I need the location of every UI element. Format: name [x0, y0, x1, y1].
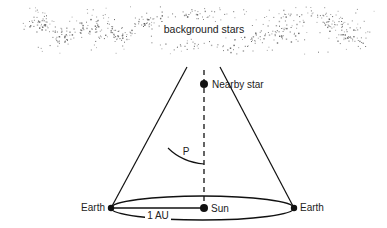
background-star	[255, 32, 256, 33]
background-star	[83, 29, 84, 30]
background-star	[242, 39, 243, 40]
background-star	[251, 39, 252, 40]
background-star	[338, 11, 339, 12]
background-star	[351, 38, 352, 39]
background-star	[299, 21, 300, 22]
background-star	[138, 23, 139, 24]
background-star	[66, 35, 67, 36]
background-star	[186, 14, 187, 15]
background-star	[344, 38, 345, 39]
background-star	[230, 52, 231, 53]
background-star	[103, 15, 104, 16]
background-star	[264, 35, 265, 36]
background-star	[122, 46, 123, 47]
background-star	[187, 16, 188, 17]
background-star	[96, 31, 97, 32]
background-star	[337, 41, 338, 42]
background-star	[119, 38, 120, 39]
background-star	[115, 36, 116, 37]
background-star	[227, 49, 228, 50]
background-star	[53, 21, 54, 22]
background-star	[279, 31, 280, 32]
background-star	[263, 24, 264, 25]
background-star	[245, 46, 246, 47]
background-star	[359, 41, 360, 42]
background-star	[29, 26, 30, 27]
background-star	[66, 31, 67, 32]
background-star	[117, 39, 118, 40]
background-star	[82, 27, 83, 28]
nearby-star-dot	[200, 80, 208, 88]
background-star	[135, 26, 136, 27]
background-star	[113, 34, 114, 35]
background-star	[363, 43, 364, 44]
background-star	[260, 32, 261, 33]
background-star	[81, 37, 82, 38]
background-star	[135, 18, 136, 19]
background-star	[82, 25, 83, 26]
background-star	[283, 31, 284, 32]
background-star	[151, 25, 152, 26]
background-star	[67, 35, 68, 36]
background-star	[190, 12, 191, 13]
background-star	[220, 19, 221, 20]
background-star	[279, 26, 280, 27]
background-star	[38, 21, 39, 22]
background-star	[290, 32, 291, 33]
background-star	[144, 24, 145, 25]
background-star	[277, 42, 278, 43]
background-star	[243, 50, 244, 51]
background-star	[46, 15, 47, 16]
background-star	[283, 28, 284, 29]
background-star	[64, 36, 65, 37]
background-star	[339, 21, 340, 22]
background-star	[154, 18, 155, 19]
background-star	[175, 16, 176, 17]
background-star	[32, 21, 33, 22]
background-star	[341, 30, 342, 31]
background-star	[148, 24, 149, 25]
background-star	[209, 15, 210, 16]
background-star	[131, 33, 132, 34]
background-star	[304, 54, 305, 55]
background-star	[96, 21, 97, 22]
background-star	[90, 32, 91, 33]
background-star	[69, 21, 70, 22]
background-star	[329, 21, 330, 22]
background-star	[339, 18, 340, 19]
background-star	[59, 53, 60, 54]
background-star	[196, 14, 197, 15]
background-star	[347, 38, 348, 39]
background-star	[86, 28, 87, 29]
background-star	[35, 7, 36, 8]
background-star	[317, 22, 318, 23]
background-star	[192, 11, 193, 12]
background-star	[312, 13, 313, 14]
background-star	[296, 39, 297, 40]
background-star	[286, 39, 287, 40]
background-star	[29, 21, 30, 22]
background-star	[361, 42, 362, 43]
background-star	[191, 39, 192, 40]
background-star	[130, 32, 131, 33]
background-star	[42, 12, 43, 13]
background-star	[111, 30, 112, 31]
background-star	[261, 30, 262, 31]
background-star	[187, 43, 188, 44]
background-star	[126, 39, 127, 40]
background-star	[209, 41, 210, 42]
background-star	[313, 12, 314, 13]
background-star	[121, 28, 122, 29]
background-star	[147, 22, 148, 23]
background-star	[134, 23, 135, 24]
background-star	[122, 38, 123, 39]
background-star	[130, 35, 131, 36]
background-star	[293, 20, 294, 21]
background-star	[62, 32, 63, 33]
background-star	[304, 39, 305, 40]
background-star	[79, 22, 80, 23]
background-star	[352, 40, 353, 41]
background-star	[55, 32, 56, 33]
background-star	[357, 38, 358, 39]
background-star	[96, 17, 97, 18]
